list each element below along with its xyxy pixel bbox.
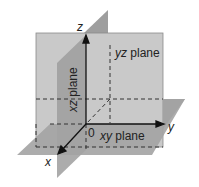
xz-plane-label: xz plane xyxy=(66,67,80,113)
x-axis-label: x xyxy=(44,155,52,169)
z-axis-label: z xyxy=(76,20,83,34)
origin-label: 0 xyxy=(88,126,95,140)
yz-plane-label: yz plane xyxy=(114,46,160,60)
y-axis-label: y xyxy=(167,120,175,134)
coordinate-planes-diagram: z y x 0 yz plane xy plane xz plane xyxy=(0,0,199,187)
xy-plane-label: xy plane xyxy=(99,129,145,143)
xy-plane-word: plane xyxy=(115,129,145,143)
yz-plane-word: plane xyxy=(130,46,160,60)
yz-plane-var: yz xyxy=(114,46,127,60)
xz-plane-var: xz xyxy=(66,100,80,113)
xz-plane-word: plane xyxy=(66,67,80,97)
xy-plane-var: xy xyxy=(99,129,113,143)
xz-plane-back xyxy=(84,10,108,33)
